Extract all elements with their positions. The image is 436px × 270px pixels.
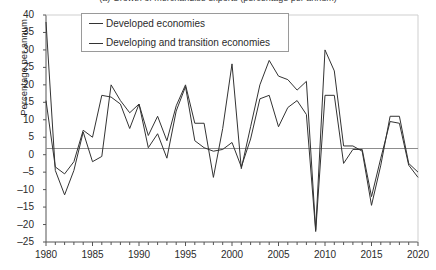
x-tick-label: 2005 — [259, 250, 299, 260]
legend-item-developed: Developed economies — [82, 14, 288, 34]
legend-label-developing: Developing and transition economies — [106, 38, 270, 48]
legend-line-swatch-developing — [89, 43, 103, 44]
chart-figure: (a) Growth of merchandise exports (perce… — [0, 0, 436, 270]
x-tick-label: 1995 — [166, 250, 206, 260]
legend-line-swatch-developed — [89, 23, 103, 24]
x-tick-label: 2010 — [305, 250, 345, 260]
x-tick-label: 1990 — [119, 250, 159, 260]
legend-label-developed: Developed economies — [106, 19, 205, 29]
legend-item-developing: Developing and transition economies — [82, 34, 288, 54]
x-tick-label: 2000 — [212, 250, 252, 260]
x-tick-label: 1980 — [26, 250, 66, 260]
x-tick-label: 2020 — [398, 250, 436, 260]
x-tick-label: 1985 — [73, 250, 113, 260]
x-tick-label: 2015 — [352, 250, 392, 260]
legend: Developed economies Developing and trans… — [81, 13, 289, 52]
y-axis-label: Percentage per annum — [18, 0, 29, 143]
